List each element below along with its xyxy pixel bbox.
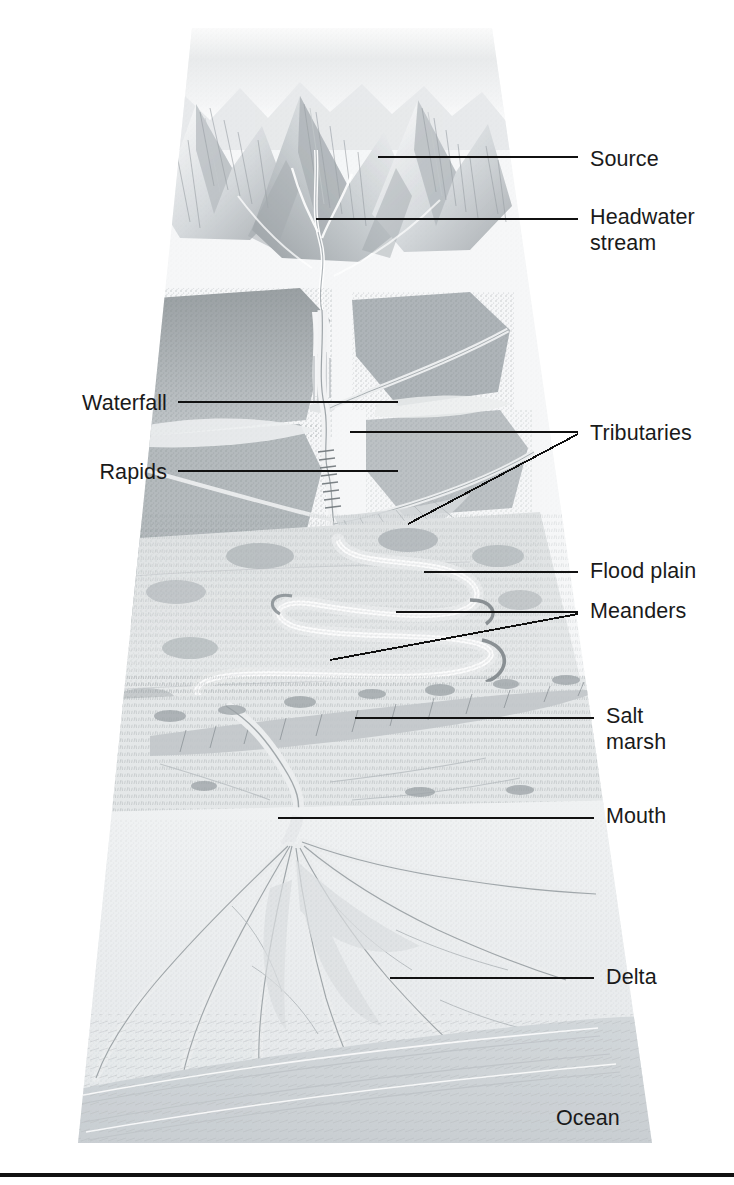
label-salt-marsh: Salt marsh xyxy=(606,703,666,755)
label-source: Source xyxy=(590,146,659,172)
footer-rule xyxy=(0,1173,734,1177)
label-rapids: Rapids xyxy=(0,459,167,485)
label-waterfall: Waterfall xyxy=(0,390,167,416)
label-meanders: Meanders xyxy=(590,598,686,624)
label-tributaries: Tributaries xyxy=(590,420,692,446)
illustration-body xyxy=(60,20,680,1154)
label-flood-plain: Flood plain xyxy=(590,558,696,584)
label-ocean: Ocean xyxy=(556,1105,620,1131)
label-delta: Delta xyxy=(606,964,657,990)
river-illustration xyxy=(0,0,734,1185)
label-mouth: Mouth xyxy=(606,803,666,829)
label-headwater-stream: Headwater stream xyxy=(590,204,695,256)
river-diagram-figure: Source Headwater stream Waterfall Rapids… xyxy=(0,0,734,1185)
